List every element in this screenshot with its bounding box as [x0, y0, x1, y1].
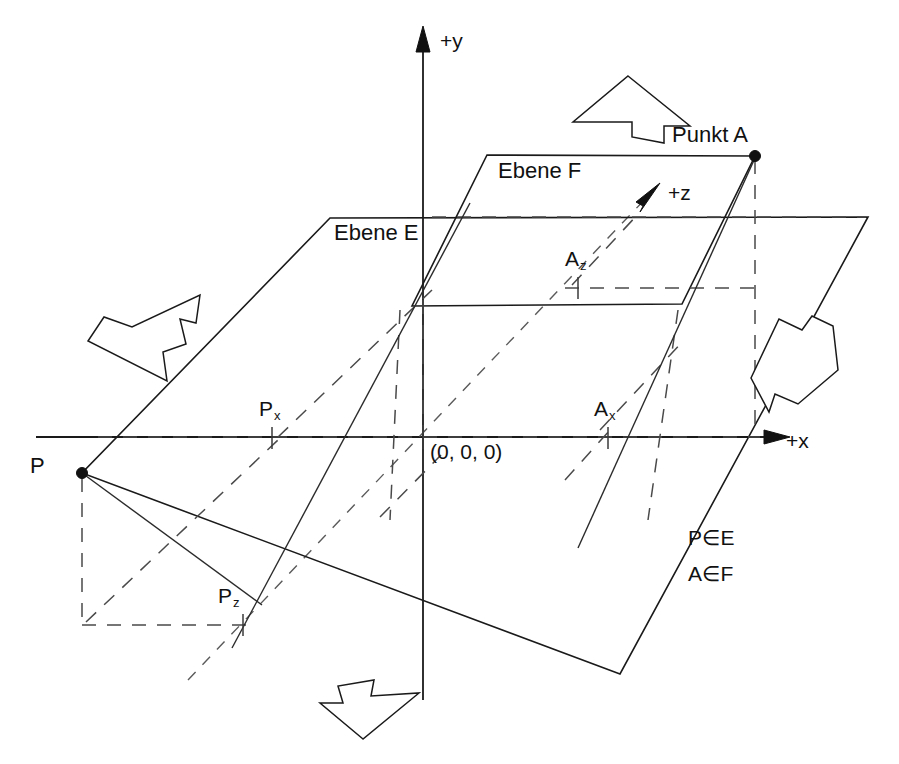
y-axis-arrowhead — [416, 26, 430, 52]
P-depth-diagonal — [86, 440, 278, 622]
projection-Pz-label: Pz — [218, 585, 239, 606]
A-oblique-lower — [578, 444, 625, 548]
projection-Px-sub: x — [274, 408, 281, 423]
plane-F-label: Ebene F — [498, 160, 581, 182]
plane-E-label: Ebene E — [334, 222, 418, 244]
arrow-right-shape — [751, 316, 838, 412]
planeF-right-drop — [648, 310, 678, 520]
projection-Px-label: Px — [259, 398, 280, 419]
projection-lines-group — [82, 158, 755, 648]
origin-label: (0, 0, 0) — [430, 441, 502, 462]
plane-normal-arrow-bottom — [320, 680, 419, 739]
plane-F-shape — [412, 155, 755, 306]
projection-Ax-sub: x — [609, 408, 616, 423]
relation-P-in-E: P∈E — [688, 527, 735, 548]
projection-Px-base: P — [259, 397, 273, 420]
relation-A-in-F: A∈F — [688, 563, 733, 584]
tick-marks-group — [243, 277, 608, 636]
point-P-marker — [77, 468, 88, 479]
z-axis-arrowhead — [636, 183, 660, 212]
point-P-label: P — [30, 455, 45, 477]
y-axis-label: +y — [440, 30, 463, 51]
arrow-bottom-shape — [320, 680, 419, 739]
planeF-left-drop — [390, 310, 400, 520]
point-A-marker — [750, 151, 761, 162]
projection-Pz-base: P — [218, 584, 232, 607]
diagram-canvas — [0, 0, 899, 764]
origin-depth-diagonal — [380, 455, 441, 517]
Pz-oblique-ray — [232, 203, 470, 648]
plane-F-outline — [412, 155, 755, 306]
projection-Az-sub: z — [580, 258, 587, 273]
x-axis-label: +x — [786, 430, 809, 451]
projection-Ax-base: A — [594, 397, 608, 420]
projection-Pz-sub: z — [233, 595, 240, 610]
projection-Ax-label: Ax — [594, 398, 615, 419]
Px-upper-diagonal — [278, 290, 432, 437]
construction-lines-group — [82, 160, 866, 625]
z-axis-label: +z — [668, 182, 691, 203]
plane-normal-arrow-right — [751, 316, 838, 412]
projection-Az-base: A — [565, 247, 579, 270]
point-A-label: Punkt A — [672, 124, 748, 146]
geometry-diagram: +y +x +z (0, 0, 0) Ebene F Ebene E Punkt… — [0, 0, 899, 764]
projection-Az-label: Az — [565, 248, 586, 269]
